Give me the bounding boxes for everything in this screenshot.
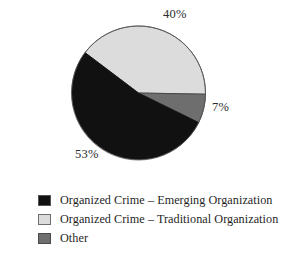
pie-label-emerging-percent: 53% <box>75 148 99 161</box>
legend-item-other: Other <box>38 229 288 248</box>
legend-swatch-traditional-icon <box>38 214 51 225</box>
chart-legend: Organized Crime – Emerging Organization … <box>38 191 288 248</box>
legend-label-traditional: Organized Crime – Traditional Organizati… <box>60 213 278 225</box>
legend-swatch-other-icon <box>38 233 51 244</box>
legend-swatch-emerging-icon <box>38 195 51 206</box>
pie-chart-area: 40% 7% 53% <box>0 0 288 180</box>
pie-label-traditional-percent: 40% <box>163 8 187 21</box>
legend-label-emerging: Organized Crime – Emerging Organization <box>60 194 272 206</box>
legend-item-traditional: Organized Crime – Traditional Organizati… <box>38 210 288 229</box>
pie-label-other-percent: 7% <box>212 101 229 114</box>
pie-chart-figure: 40% 7% 53% Organized Crime – Emerging Or… <box>0 0 288 264</box>
pie-chart-svg <box>0 0 288 180</box>
legend-item-emerging: Organized Crime – Emerging Organization <box>38 191 288 210</box>
legend-label-other: Other <box>60 232 88 244</box>
